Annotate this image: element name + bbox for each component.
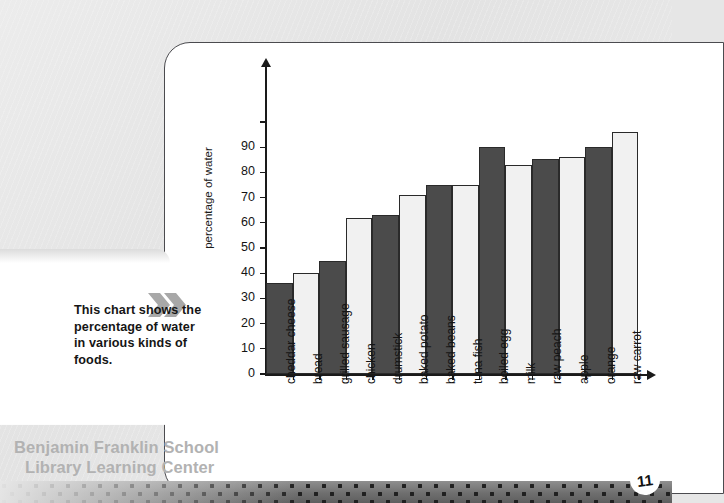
y-tick [260, 147, 266, 148]
x-axis-label: orange [604, 347, 618, 384]
bottom-dotted-band [0, 481, 672, 503]
y-axis-arrow-icon [261, 58, 271, 67]
y-tick-label: 70 [229, 190, 255, 204]
library-stamp-line1: Benjamin Franklin School [14, 438, 219, 456]
x-axis-arrow-icon [647, 370, 656, 380]
y-tick [260, 247, 266, 248]
y-tick-label: 20 [229, 316, 255, 330]
caption-text: This chart shows the percentage of water… [74, 302, 202, 368]
y-tick-label: 90 [229, 139, 255, 153]
y-tick-label: 0 [229, 366, 255, 380]
x-axis-label: baked potato [417, 315, 431, 384]
y-tick [260, 273, 266, 274]
x-axis-label: tuna fish [471, 339, 485, 384]
x-axis-label: baked beans [444, 315, 458, 384]
x-axis-label: chicken [364, 343, 378, 384]
y-tick-label: 30 [229, 290, 255, 304]
x-axis-label: drumstick [391, 333, 405, 384]
x-axis-label: boiled egg [497, 329, 511, 384]
x-axis-label: milk [524, 363, 538, 384]
y-tick [260, 222, 266, 223]
y-tick-label: 80 [229, 164, 255, 178]
x-axis-label: grilled sausage [338, 303, 352, 384]
y-tick-label: 50 [229, 240, 255, 254]
y-tick-label: 10 [229, 341, 255, 355]
y-tick-label: 60 [229, 215, 255, 229]
library-stamp-line2: Library Learning Center [14, 457, 224, 477]
y-tick [260, 121, 266, 122]
y-tick [260, 172, 266, 173]
y-tick-label: 40 [229, 265, 255, 279]
x-axis-label: bread [311, 353, 325, 384]
library-stamp: Benjamin Franklin School Library Learnin… [14, 437, 224, 477]
bar [585, 147, 612, 374]
x-axis-label: cheddar cheese [284, 299, 298, 384]
x-axis-label: raw carrot [630, 331, 644, 384]
bar-chart: percentage of water 0102030405060708090 … [164, 42, 724, 494]
y-axis-title: percentage of water [202, 123, 214, 273]
y-tick [260, 197, 266, 198]
x-axis-label: raw peach [550, 329, 564, 384]
x-axis-label: apple [577, 355, 591, 384]
